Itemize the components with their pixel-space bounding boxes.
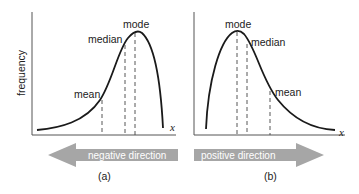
panel-a: frequency mean median mode x negative di… xyxy=(15,12,178,182)
mode-label: mode xyxy=(225,18,251,30)
median-label: median xyxy=(251,36,286,48)
y-axis-label: frequency xyxy=(15,49,27,96)
panel-b: mode median mean x positive direction (b… xyxy=(194,12,345,182)
negative-direction-label: negative direction xyxy=(88,150,166,161)
median-label: median xyxy=(88,33,123,45)
negatively-skewed-curve xyxy=(37,32,163,130)
mean-label: mean xyxy=(74,88,100,100)
mode-label: mode xyxy=(123,18,149,30)
x-axis-label: x xyxy=(338,126,344,138)
x-axis-label: x xyxy=(169,121,175,133)
caption-b: (b) xyxy=(264,170,277,182)
positive-direction-label: positive direction xyxy=(201,150,275,161)
skewness-diagram: frequency mean median mode x negative di… xyxy=(0,0,359,194)
mean-label: mean xyxy=(275,86,301,98)
caption-a: (a) xyxy=(98,170,111,182)
